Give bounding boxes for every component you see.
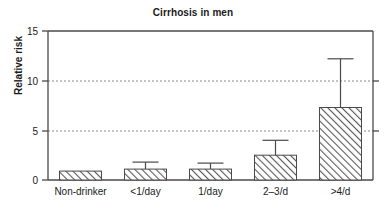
x-tick-label: 1/day xyxy=(198,186,222,197)
x-tick-label: 2–3/d xyxy=(263,186,288,197)
x-tick-label: Non-drinker xyxy=(54,186,107,197)
x-tick-label: >4/d xyxy=(331,186,351,197)
y-tick-5: 5 xyxy=(32,126,38,137)
bar xyxy=(190,169,232,180)
bar xyxy=(60,171,102,180)
bar xyxy=(255,155,297,180)
y-tick-15: 15 xyxy=(27,26,39,37)
x-axis-labels: Non-drinker<1/day1/day2–3/d>4/d xyxy=(54,186,350,197)
bars-group xyxy=(60,108,362,181)
bar xyxy=(125,169,167,180)
y-axis-ticks xyxy=(42,31,48,180)
y-tick-10: 10 xyxy=(27,76,39,87)
y-axis-ticks-right xyxy=(373,81,379,131)
bar xyxy=(320,108,362,181)
y-tick-labels: 0 5 10 15 xyxy=(27,26,39,186)
plot-area: 0 5 10 15 Non-drinker<1/day1/day2–3/d>4/… xyxy=(0,0,386,205)
x-tick-label: <1/day xyxy=(130,186,160,197)
chart-container: Cirrhosis in men Relative risk xyxy=(0,0,386,205)
y-tick-0: 0 xyxy=(32,175,38,186)
